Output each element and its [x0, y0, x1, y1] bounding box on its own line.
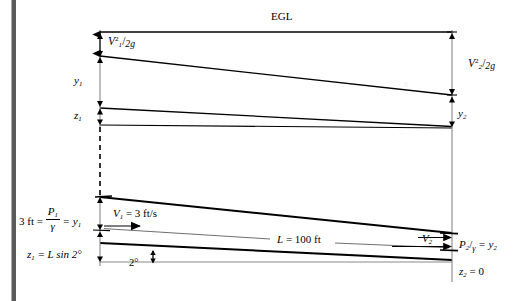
- velocity-head-2-label: V22/2g: [468, 58, 495, 71]
- depth-1-sub: 1: [79, 80, 82, 87]
- pressure-head-2-eq-sub: 2: [493, 244, 496, 251]
- velocity-1-label: V1 = 3 ft/s: [113, 208, 157, 221]
- pressure-head-1-prefix: 3 ft =: [19, 215, 46, 227]
- pressure-head-1-num-sub: 1: [54, 211, 57, 218]
- elev-1-sub: 1: [78, 115, 81, 122]
- faint-watermark: |||: [404, 81, 408, 87]
- pressure-head-1-denominator: γ: [46, 220, 60, 233]
- velocity-head-1-var: V: [108, 35, 115, 47]
- pressure-head-1-tick-bottom: [93, 230, 110, 231]
- length-rest: = 100 ft: [283, 233, 321, 245]
- pressure-head-1-suffix: = y: [60, 215, 78, 227]
- angle-dimension-arrow-down: [150, 259, 155, 264]
- velocity-2-sub: 2: [429, 238, 432, 245]
- elev-2-rest: = 0: [467, 265, 484, 277]
- page-edge-bar: [12, 0, 17, 301]
- slope-angle-label: 2°: [129, 258, 138, 269]
- length-dimension-line-left: [104, 229, 270, 239]
- velocity-2-label: V2: [422, 233, 432, 246]
- pressure-head-1-arrow-down: [97, 225, 103, 231]
- hgl-line: [100, 56, 452, 95]
- elev-2-label: z2 = 0: [459, 266, 484, 279]
- depth-1-arrow-down: [97, 101, 103, 107]
- elev-1-expression-label: z1 = L sin 2°: [27, 249, 82, 262]
- elev-1-expr-arrow-down: [97, 257, 103, 263]
- angle-dimension-arrow-up: [150, 250, 155, 255]
- pressure-head-1-label: 3 ft = P1γ = y1: [19, 205, 81, 233]
- velocity-head-1-denom: 2g: [125, 38, 135, 49]
- pressure-head-2-eq: = y: [476, 238, 494, 250]
- velocity-2-var: V: [422, 232, 429, 244]
- pressure-head-2-tick-top: [440, 233, 458, 234]
- velocity-head-2-arrow-up: [449, 33, 455, 39]
- figure-canvas: ||| EGL V21/2g V22/2g y1 z1 y2 3 ft = P1…: [0, 0, 521, 301]
- water-surface-line-upper: [100, 108, 452, 127]
- elev-1-expr-rest: = L sin 2°: [35, 248, 82, 260]
- channel-bed-line-upper: [100, 125, 452, 128]
- pressure-head-2-tick-bottom: [440, 250, 458, 251]
- pressure-head-1-numerator: P1: [46, 205, 60, 220]
- pressure-head-2-num: P: [459, 238, 466, 250]
- elev-1-arrow-up: [97, 109, 103, 115]
- pressure-head-1-tick-top: [95, 196, 112, 197]
- velocity-head-2-arrow-down: [449, 89, 455, 95]
- velocity-head-2-denom: 2g: [485, 60, 495, 71]
- depth-1-arrow-up: [97, 57, 103, 63]
- depth-2-arrow-up: [449, 97, 455, 103]
- elev-1-expr-arrow-up: [97, 232, 103, 238]
- depth-2-sub: 2: [463, 113, 466, 120]
- velocity-head-1-arrow-up: [97, 33, 103, 39]
- length-label: L = 100 ft: [277, 234, 321, 245]
- velocity-1-value: = 3 ft/s: [123, 207, 157, 219]
- depth-1-label: y1: [74, 75, 82, 88]
- velocity-head-2-var: V: [468, 57, 475, 69]
- pressure-head-1-suffix-sub: 1: [78, 221, 81, 228]
- velocity-head-1-label: V21/2g: [108, 36, 135, 49]
- pressure-head-2-label: P2/γ = y2: [459, 239, 497, 252]
- elev-1-label: z1: [74, 110, 82, 123]
- depth-2-label: y2: [458, 108, 466, 121]
- egl-label: EGL: [271, 11, 292, 22]
- elev-1-arrow-down: [97, 120, 103, 126]
- velocity-1-var: V: [113, 207, 120, 219]
- pressure-head-1-fraction: P1γ: [46, 205, 60, 233]
